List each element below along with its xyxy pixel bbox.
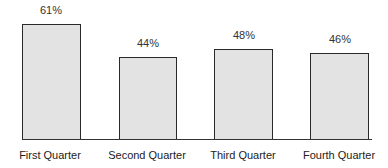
bar-q1 [22,24,81,139]
value-label-q1: 61% [21,4,81,16]
value-label-q3: 48% [214,29,274,41]
category-label-q4: Fourth Quarter [294,149,384,161]
bar-q3 [214,49,273,139]
category-label-q2: Second Quarter [102,149,192,161]
category-label-q3: Third Quarter [198,149,288,161]
category-label-q1: First Quarter [5,149,95,161]
value-label-q4: 46% [310,33,370,45]
value-label-q2: 44% [118,37,178,49]
bar-q2 [119,57,177,139]
bar-q4 [310,53,369,139]
x-axis-line [22,139,372,140]
